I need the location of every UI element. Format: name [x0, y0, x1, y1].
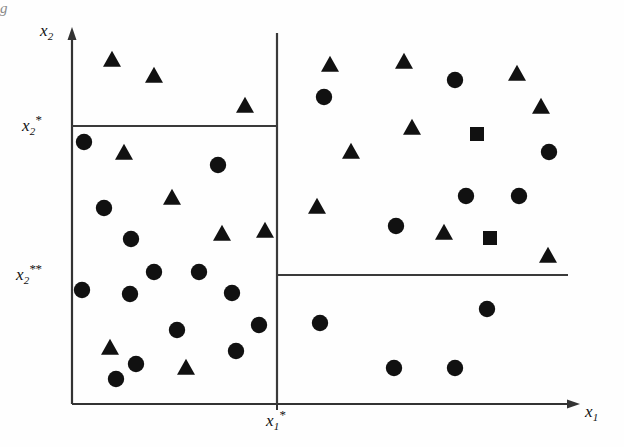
data-point-triangle	[435, 224, 453, 240]
x-axis-title: x1	[585, 403, 598, 423]
tick-label-x1-star: x1*	[266, 408, 285, 432]
data-point-circle	[447, 360, 463, 376]
plot-canvas	[0, 0, 624, 447]
data-point-triangle	[403, 119, 421, 135]
data-point-circle	[447, 72, 463, 88]
data-point-square	[483, 231, 497, 245]
data-point-triangle	[539, 247, 557, 263]
data-point-triangle	[177, 359, 195, 375]
data-point-circle	[479, 301, 495, 317]
y-axis-title: x2	[40, 22, 53, 42]
data-point-circle	[74, 282, 90, 298]
data-point-triangle	[342, 143, 360, 159]
data-point-circle	[251, 317, 267, 333]
data-point-circle	[210, 157, 226, 173]
scatter-plot-figure: g x2 x1 x2* x2** x1*	[0, 0, 624, 447]
data-point-circle	[541, 144, 557, 160]
data-point-triangle	[508, 65, 526, 81]
data-point-circle	[312, 315, 328, 331]
data-point-circle	[108, 371, 124, 387]
data-point-square	[470, 127, 484, 141]
data-point-triangle	[256, 222, 274, 238]
data-point-triangle	[101, 339, 119, 355]
tick-label-x2-star: x2*	[22, 113, 41, 137]
data-point-circle	[224, 285, 240, 301]
data-point-triangle	[321, 56, 339, 72]
data-point-circle	[388, 218, 404, 234]
data-markers-layer	[74, 51, 557, 387]
data-point-circle	[511, 188, 527, 204]
data-point-circle	[316, 89, 332, 105]
data-point-triangle	[145, 67, 163, 83]
data-point-triangle	[532, 98, 550, 114]
data-point-circle	[191, 264, 207, 280]
data-point-triangle	[163, 189, 181, 205]
y-axis	[68, 27, 77, 404]
data-point-circle	[128, 356, 144, 372]
data-point-triangle	[308, 198, 326, 214]
data-point-triangle	[213, 225, 231, 241]
data-point-circle	[96, 200, 112, 216]
data-point-circle	[76, 134, 92, 150]
data-point-circle	[123, 231, 139, 247]
data-point-circle	[146, 264, 162, 280]
data-point-circle	[169, 322, 185, 338]
data-point-circle	[386, 360, 402, 376]
data-point-circle	[458, 188, 474, 204]
data-point-circle	[228, 343, 244, 359]
data-point-triangle	[115, 144, 133, 160]
x-axis	[72, 400, 580, 409]
tick-label-x2-double-star: x2**	[16, 262, 41, 286]
data-point-triangle	[236, 97, 254, 113]
data-point-triangle	[395, 53, 413, 69]
data-point-triangle	[103, 51, 121, 67]
data-point-circle	[122, 286, 138, 302]
